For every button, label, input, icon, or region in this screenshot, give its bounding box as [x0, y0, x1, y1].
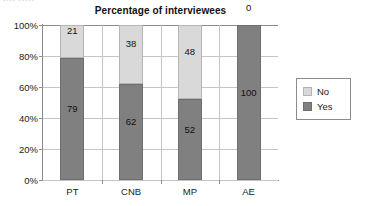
chart-title: Percentage of interviewees: [43, 5, 278, 16]
x-axis-label-pt: PT: [66, 186, 78, 197]
chart-legend: No Yes: [296, 78, 351, 120]
bar-group-pt[interactable]: 7921: [60, 25, 84, 180]
y-tick-80: [39, 56, 43, 57]
bar-segment-pt-yes[interactable]: [60, 58, 84, 180]
x-tick-2: [161, 180, 162, 184]
gridline-x-3: [219, 25, 220, 180]
y-tick-20: [39, 149, 43, 150]
x-axis-label-cnb: CNB: [121, 186, 141, 197]
legend-label-no: No: [317, 87, 329, 97]
x-axis-label-mp: MP: [183, 186, 197, 197]
x-axis-label-ae: AE: [242, 186, 255, 197]
gridline-x-2: [161, 25, 162, 180]
bar-segment-mp-yes[interactable]: [178, 99, 202, 180]
legend-label-yes: Yes: [317, 102, 333, 112]
bar-group-mp[interactable]: 5248: [178, 25, 202, 180]
legend-swatch-yes-icon: [303, 102, 312, 111]
plot-area: 7921623852481000: [43, 25, 278, 180]
legend-item-yes[interactable]: Yes: [303, 99, 345, 114]
bar-group-ae[interactable]: 1000: [237, 25, 261, 180]
y-axis-label-0: 0%: [4, 175, 38, 186]
y-axis-label-100: 100%: [4, 20, 38, 31]
x-tick-3: [219, 180, 220, 184]
y-axis-label-80: 80%: [4, 51, 38, 62]
bar-segment-pt-no[interactable]: [60, 25, 84, 58]
y-axis-label-20: 20%: [4, 144, 38, 155]
bar-group-cnb[interactable]: 6238: [119, 25, 143, 180]
y-tick-40: [39, 118, 43, 119]
gridline-x-1: [102, 25, 103, 180]
y-tick-100: [39, 25, 43, 26]
y-axis-label-40: 40%: [4, 113, 38, 124]
bar-segment-mp-no[interactable]: [178, 25, 202, 99]
legend-swatch-no-icon: [303, 87, 312, 96]
y-axis-label-60: 60%: [4, 82, 38, 93]
y-axis-line: [42, 24, 43, 181]
stacked-bar-chart: Percentage of interviewees 7921623852481…: [0, 0, 365, 206]
y-tick-60: [39, 87, 43, 88]
bar-segment-ae-yes[interactable]: [237, 25, 261, 180]
legend-item-no[interactable]: No: [303, 84, 345, 99]
bar-segment-cnb-no[interactable]: [119, 25, 143, 84]
y-tick-0: [39, 180, 43, 181]
x-tick-1: [102, 180, 103, 184]
bar-segment-cnb-yes[interactable]: [119, 84, 143, 180]
